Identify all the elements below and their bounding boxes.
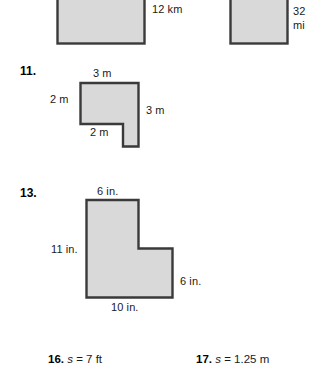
answer-16-value: 7 ft xyxy=(86,353,102,365)
problem-13-label-top: 6 in. xyxy=(97,185,118,198)
worksheet-page: 12 km 32 mi 11. 3 m 2 m 3 m 2 m 13. 6 in… xyxy=(0,0,312,367)
problem-11-label-inner-bottom: 2 m xyxy=(90,126,109,139)
answer-17-value: 1.25 m xyxy=(234,353,269,365)
answer-17-variable: s xyxy=(215,353,221,365)
answer-17-number: 17. xyxy=(196,353,212,365)
square-32-mi-figure xyxy=(229,0,291,46)
square-12-km-label: 12 km xyxy=(152,3,182,16)
problem-11-label-left: 2 m xyxy=(50,93,69,106)
square-32-mi-label-line2: mi xyxy=(293,19,305,32)
answer-17-equals: = xyxy=(224,353,231,365)
problem-11-number: 11. xyxy=(20,64,36,78)
answer-item-17: 17. s = 1.25 m xyxy=(196,352,269,366)
problem-11-figure xyxy=(78,80,142,150)
square-12-km-figure xyxy=(56,0,148,46)
problem-13-label-left: 11 in. xyxy=(51,243,78,256)
answer-16-variable: s xyxy=(67,353,73,365)
answer-16-equals: = xyxy=(76,353,83,365)
problem-11-label-top: 3 m xyxy=(93,67,112,80)
square-32-mi-label-line1: 32 xyxy=(293,5,305,18)
problem-13-number: 13. xyxy=(20,186,37,200)
answer-16-number: 16. xyxy=(48,353,64,365)
answer-item-16: 16. s = 7 ft xyxy=(48,352,102,366)
problem-13-label-right: 6 in. xyxy=(180,275,201,288)
problem-13-label-bottom: 10 in. xyxy=(111,301,139,314)
problem-13-figure xyxy=(84,197,176,301)
problem-11-label-right: 3 m xyxy=(146,104,165,117)
